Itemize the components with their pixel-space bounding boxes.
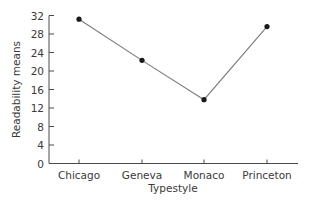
x-ticks: ChicagoGenevaMonacoPrinceton — [58, 160, 292, 181]
x-tick-label: Princeton — [242, 169, 291, 181]
y-tick-label: 28 — [31, 28, 44, 40]
y-tick-label: 8 — [37, 121, 44, 133]
data-point — [201, 97, 206, 102]
y-tick-label: 20 — [31, 65, 44, 77]
series-line — [79, 19, 267, 99]
y-tick-label: 12 — [31, 102, 44, 114]
y-tick-label: 16 — [31, 84, 45, 96]
x-tick-label: Monaco — [184, 169, 225, 181]
x-tick-label: Geneva — [122, 169, 162, 181]
series — [76, 17, 269, 103]
x-tick-label: Chicago — [58, 169, 100, 181]
y-axis-title: Readability means — [10, 41, 22, 138]
y-tick-label: 4 — [37, 139, 44, 151]
axes — [49, 16, 298, 164]
data-point — [264, 24, 269, 29]
data-point — [76, 17, 81, 22]
line-chart: 048121620242832 ChicagoGenevaMonacoPrinc… — [0, 0, 313, 206]
y-tick-label: 32 — [31, 10, 44, 22]
y-tick-label: 24 — [31, 47, 45, 59]
x-axis-title: Typestyle — [147, 182, 197, 194]
data-point — [139, 58, 144, 63]
y-ticks: 048121620242832 — [31, 10, 54, 170]
y-tick-label: 0 — [37, 158, 44, 170]
